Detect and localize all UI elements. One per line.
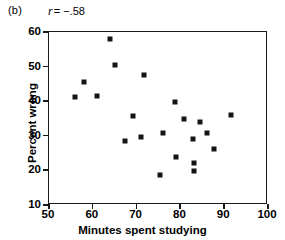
data-point [122,138,127,143]
data-point [198,120,203,125]
data-point [191,168,196,173]
data-point [228,113,233,118]
x-axis-tick-label: 90 [203,208,243,220]
x-axis-tick-label: 50 [28,208,68,220]
x-axis-tick-label: 60 [72,208,112,220]
plot-area [48,31,267,204]
data-point [173,99,178,104]
data-point [204,130,209,135]
data-point [173,154,178,159]
data-point [190,136,195,141]
y-axis-tick [43,66,48,68]
data-point [191,161,196,166]
correlation-value: = −.58 [54,5,85,17]
data-point [181,116,186,121]
x-axis-title: Minutes spent studying [0,224,285,236]
y-axis-tick-label: 60 [0,25,41,37]
y-axis-tick [43,169,48,171]
y-axis-tick [43,31,48,33]
x-axis-tick-label: 100 [247,208,285,220]
data-point [112,63,117,68]
scatter-plot-figure: (b) r= −.58 1020304050605060708090100 Pe… [0,0,285,240]
correlation-annotation: r= −.58 [48,4,85,19]
data-point [95,94,100,99]
data-points-layer [49,32,266,203]
data-point [131,114,136,119]
data-point [211,146,216,151]
data-point [73,95,78,100]
panel-label: (b) [8,4,22,16]
y-axis-tick [43,135,48,137]
data-point [82,80,87,85]
y-axis-title: Percent wrong [26,43,38,203]
x-axis-tick-label: 80 [159,208,199,220]
x-axis-tick-label: 70 [116,208,156,220]
y-axis-tick [43,100,48,102]
data-point [108,36,113,41]
data-point [157,172,162,177]
data-point [138,134,143,139]
data-point [160,131,165,136]
data-point [142,72,147,77]
